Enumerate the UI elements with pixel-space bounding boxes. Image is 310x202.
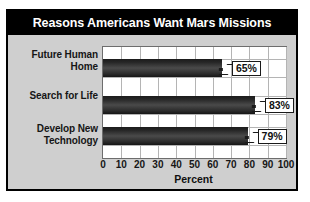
x-axis-title: Percent [102, 173, 285, 185]
category-label-line1: Develop New [10, 123, 98, 135]
category-label-develop-new-technology: Develop New Technology [10, 123, 98, 146]
x-axis-ticks: 0102030405060708090100 [102, 159, 287, 172]
category-label-line2: Home [10, 61, 98, 73]
category-label-line1: Future Human [10, 49, 98, 61]
plot-area: 65%83%79% [102, 46, 287, 159]
category-axis-labels: Future Human Home Search for Life Develo… [10, 45, 98, 157]
x-tick-label: 40 [171, 159, 182, 170]
bar [103, 96, 255, 114]
x-tick-label: 10 [116, 159, 127, 170]
x-tick-label: 80 [244, 159, 255, 170]
x-tick-label: 30 [152, 159, 163, 170]
x-tick-label: 90 [262, 159, 273, 170]
category-label-future-human-home: Future Human Home [10, 49, 98, 72]
category-label-line1: Search for Life [10, 90, 98, 102]
data-label: 65% [232, 61, 261, 76]
x-tick-label: 60 [207, 159, 218, 170]
bar [103, 127, 248, 145]
data-label: 79% [258, 129, 287, 144]
gridline-horizontal [103, 145, 286, 146]
chart-body: Future Human Home Search for Life Develo… [8, 35, 296, 189]
category-label-line2: Technology [10, 135, 98, 147]
data-label: 83% [265, 98, 294, 113]
x-tick-label: 0 [100, 159, 106, 170]
x-tick-label: 70 [226, 159, 237, 170]
chart-figure: Reasons Americans Want Mars Missions Fut… [6, 9, 298, 191]
chart-title-bar: Reasons Americans Want Mars Missions [8, 11, 296, 35]
x-tick-label: 100 [278, 159, 295, 170]
bar [103, 59, 222, 77]
x-tick-label: 20 [134, 159, 145, 170]
chart-title: Reasons Americans Want Mars Missions [33, 16, 272, 30]
gridline-horizontal [103, 77, 286, 78]
gridline-horizontal [103, 114, 286, 115]
category-label-search-for-life: Search for Life [10, 90, 98, 102]
x-tick-label: 50 [189, 159, 200, 170]
